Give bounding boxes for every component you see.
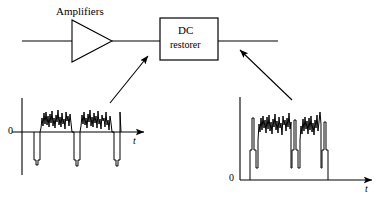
amplifier-symbol — [72, 20, 112, 62]
plot-after-restoration — [240, 97, 372, 180]
right-plot-x-axis-label: t — [365, 184, 368, 194]
plot-before-restoration — [12, 98, 144, 175]
pointer-left-waveform — [110, 56, 148, 103]
right-plot-waveform — [250, 112, 328, 180]
diagram-canvas: Amplifiers DC restorer 0 t 0 t — [0, 0, 384, 200]
amplifier-label: Amplifiers — [56, 6, 104, 17]
left-plot-x-axis-label: t — [133, 136, 136, 146]
right-plot-zero-label: 0 — [229, 173, 234, 183]
dc-restorer-label-line1: DC — [178, 25, 193, 36]
pointer-right-waveform — [240, 50, 292, 100]
dc-restorer-label-line2: restorer — [170, 40, 201, 50]
left-plot-zero-label: 0 — [8, 126, 13, 136]
left-plot-waveform — [34, 110, 121, 166]
